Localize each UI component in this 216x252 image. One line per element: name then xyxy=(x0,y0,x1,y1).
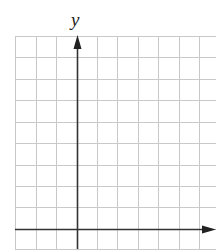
x-axis-arrow-icon xyxy=(202,226,216,234)
coordinate-plane: y xyxy=(0,0,216,252)
y-axis-label: y xyxy=(69,9,80,30)
grid-lines xyxy=(15,36,216,250)
y-axis-arrow-icon xyxy=(74,35,82,49)
